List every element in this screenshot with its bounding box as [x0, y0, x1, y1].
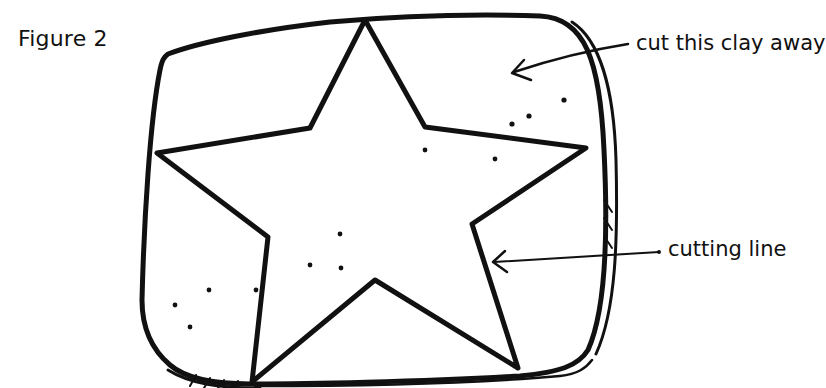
star-shape [157, 20, 586, 382]
clay-star-drawing [0, 0, 826, 388]
arrow-cut-away [512, 44, 628, 80]
label-cutting-line: cutting line [668, 237, 786, 261]
label-cut-this-clay-away: cut this clay away [636, 31, 825, 55]
clay-speckles [173, 97, 567, 329]
clay-slab [142, 15, 617, 388]
arrow-cutting-line [493, 250, 661, 272]
